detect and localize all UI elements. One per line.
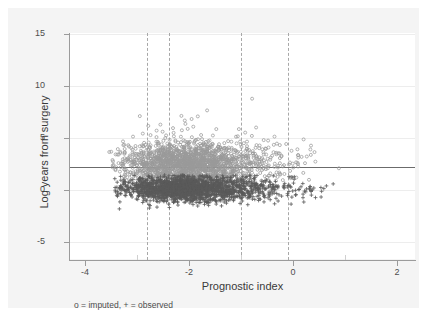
gridline-y [70,242,415,243]
x-tick-minor [345,255,346,260]
gridline-y [70,86,415,87]
x-tick-label: 0 [290,267,295,277]
gridline-y [70,138,415,139]
y-tick [64,34,69,35]
graph-canvas: -5051015 -4-202 Log years from surgery P… [8,8,419,308]
x-tick-label: -4 [81,267,89,277]
x-tick-minor [137,255,138,260]
gridline-y [70,190,415,191]
plot-area-background [70,33,415,259]
figure-container: -5051015 -4-202 Log years from surgery P… [0,0,427,317]
y-tick [64,242,69,243]
x-tick [397,261,398,266]
x-tick [189,261,190,266]
x-axis-line [69,260,416,261]
x-axis-title: Prognostic index [70,280,415,292]
vertical-reference-line [147,33,148,260]
y-tick-label: 15 [35,28,45,38]
y-tick [64,86,69,87]
y-tick [64,190,69,191]
vertical-reference-line [241,33,242,260]
x-tick-label: -2 [185,267,193,277]
x-tick-label: 2 [394,267,399,277]
horizontal-reference-line [70,167,415,168]
x-tick-minor [241,255,242,260]
y-axis-line [69,33,70,260]
legend-note: o = imputed, + = observed [74,300,173,310]
y-tick [64,138,69,139]
vertical-reference-line [288,33,289,260]
gridline-y [70,34,415,35]
y-axis-title: Log years from surgery [38,52,50,252]
x-tick [293,261,294,266]
vertical-reference-line [169,33,170,260]
x-tick [85,261,86,266]
